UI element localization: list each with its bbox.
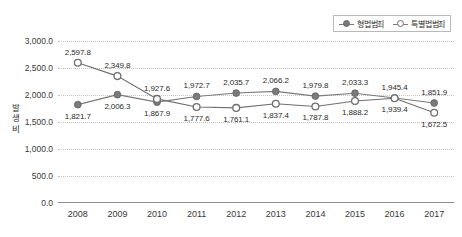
data-point-filled[interactable]: [114, 91, 121, 98]
data-point-label: 1,851.9: [421, 87, 447, 96]
y-axis-tick-label: 1,000.0: [25, 144, 53, 154]
data-point-label: 1,979.8: [302, 81, 328, 90]
series-line: [78, 91, 434, 104]
data-point-label: 2,033.3: [342, 78, 368, 87]
legend-entry-special-law[interactable]: 특별법범죄: [393, 18, 445, 29]
data-point-label: 2,066.2: [263, 76, 289, 85]
y-axis-tick-label: 1,500.0: [25, 117, 53, 127]
data-point-label: 1,777.6: [184, 114, 210, 123]
data-point-open[interactable]: [233, 105, 240, 112]
data-point-open[interactable]: [312, 103, 319, 110]
x-axis-tick-label: 2017: [424, 209, 444, 219]
data-point-open[interactable]: [352, 98, 359, 105]
y-axis-tick-label: 0.0: [41, 198, 53, 208]
y-axis-title: 발 생 비: [10, 103, 22, 135]
legend-label-criminal-law: 형법범죄: [357, 18, 384, 29]
data-point-open[interactable]: [391, 95, 398, 102]
data-point-label: 1,761.1: [223, 114, 249, 123]
data-point-label: 1,888.2: [342, 108, 368, 117]
y-axis-tick-label: 2,500.0: [25, 63, 53, 73]
data-point-label: 2,349.8: [104, 61, 130, 70]
y-axis-tick-label: 2,000.0: [25, 90, 53, 100]
data-point-label: 1,867.9: [144, 109, 170, 118]
x-axis-tick-label: 2011: [187, 209, 206, 219]
data-point-open[interactable]: [193, 104, 200, 111]
data-point-filled[interactable]: [233, 90, 240, 97]
data-point-label: 1,972.7: [184, 81, 210, 90]
x-axis-tick-label: 2016: [385, 209, 405, 219]
data-point-label: 1,787.8: [302, 113, 328, 122]
filled-circle-marker-icon: [339, 19, 354, 28]
data-point-filled[interactable]: [431, 100, 438, 107]
y-axis-title-char-3: 비: [10, 124, 22, 135]
y-axis-tick-label: 500.0: [32, 171, 53, 181]
plot-area: 0.0500.01,000.01,500.02,000.02,500.03,00…: [58, 41, 454, 203]
data-point-filled[interactable]: [74, 101, 81, 108]
data-point-filled[interactable]: [193, 93, 200, 100]
data-point-label: 1,927.6: [144, 83, 170, 92]
data-point-label: 1,939.4: [382, 105, 408, 114]
y-axis-title-char-2: 생: [10, 113, 22, 124]
y-axis-tick-label: 3,000.0: [25, 36, 53, 46]
data-point-label: 2,006.3: [104, 101, 130, 110]
data-point-label: 2,597.8: [65, 47, 91, 56]
data-point-filled[interactable]: [352, 90, 359, 97]
chart-legend: 형법범죄 특별법범죄: [333, 15, 451, 32]
x-axis-tick-label: 2008: [68, 209, 88, 219]
x-axis-tick-label: 2010: [147, 209, 167, 219]
x-axis-tick-label: 2012: [226, 209, 246, 219]
data-point-label: 1,821.7: [65, 111, 91, 120]
data-point-open[interactable]: [74, 59, 81, 66]
data-point-label: 2,035.7: [223, 78, 249, 87]
data-point-label: 1,837.4: [263, 110, 289, 119]
open-circle-marker-icon: [393, 19, 408, 28]
data-point-open[interactable]: [431, 109, 438, 116]
y-axis-title-char-1: 발: [10, 103, 22, 114]
legend-entry-criminal-law[interactable]: 형법범죄: [339, 18, 384, 29]
x-axis-tick-label: 2015: [345, 209, 365, 219]
data-point-label: 1,945.4: [382, 82, 408, 91]
x-axis-tick-label: 2014: [305, 209, 325, 219]
legend-label-special-law: 특별법범죄: [411, 18, 445, 29]
data-point-filled[interactable]: [312, 93, 319, 100]
crime-rate-line-chart: 형법범죄 특별법범죄 발 생 비 0.0500.01,000.01,500.02…: [0, 0, 462, 237]
x-axis-tick-label: 2009: [107, 209, 127, 219]
data-point-open[interactable]: [154, 96, 161, 103]
x-axis-tick-label: 2013: [266, 209, 286, 219]
data-point-label: 1,672.5: [421, 119, 447, 128]
data-point-filled[interactable]: [272, 88, 279, 95]
data-point-open[interactable]: [114, 73, 121, 80]
data-point-open[interactable]: [272, 100, 279, 107]
